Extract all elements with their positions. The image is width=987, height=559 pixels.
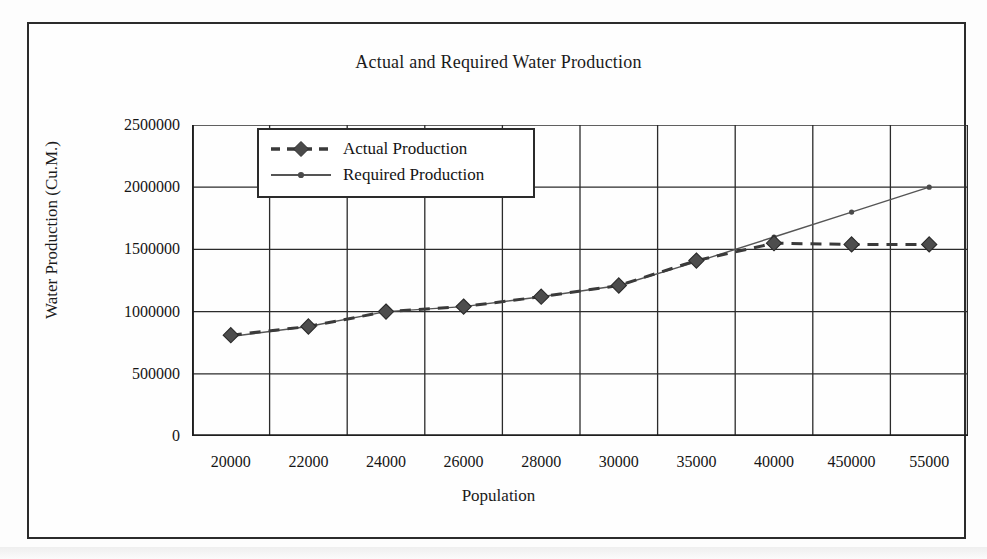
legend-label-required-production: Required Production bbox=[343, 165, 484, 185]
x-axis-tick-label: 450000 bbox=[828, 453, 876, 471]
legend-label-actual-production: Actual Production bbox=[343, 139, 467, 159]
data-point-marker bbox=[378, 304, 393, 319]
x-axis-tick-label: 55000 bbox=[909, 453, 949, 471]
legend-item-actual-production: Actual Production bbox=[269, 136, 523, 162]
chart-legend: Actual Production Required Production bbox=[257, 128, 535, 198]
data-point-marker bbox=[534, 289, 549, 304]
data-point-marker bbox=[927, 185, 932, 190]
x-axis-tick-label: 22000 bbox=[288, 453, 328, 471]
y-axis-tick-label: 2000000 bbox=[50, 179, 180, 195]
x-axis-tick-label: 26000 bbox=[444, 453, 484, 471]
scan-artifact-band bbox=[0, 547, 987, 559]
y-axis-tick-label: 2500000 bbox=[50, 117, 180, 133]
y-axis-tick-label: 500000 bbox=[50, 366, 180, 382]
x-axis-tick-label: 35000 bbox=[676, 453, 716, 471]
y-axis-tick-label: 1000000 bbox=[50, 304, 180, 320]
data-point-marker bbox=[611, 278, 626, 293]
data-point-marker bbox=[223, 328, 238, 343]
data-point-marker bbox=[849, 210, 854, 215]
data-point-marker bbox=[689, 253, 704, 268]
y-axis-tick-label: 1500000 bbox=[50, 241, 180, 257]
x-axis-tick-label: 28000 bbox=[521, 453, 561, 471]
legend-swatch-dashed-diamond bbox=[269, 139, 333, 159]
x-axis-tick-labels: 2000022000240002600028000300003500040000… bbox=[192, 453, 968, 479]
data-point-marker bbox=[766, 236, 781, 251]
page-background: Actual and Required Water Production Wat… bbox=[0, 0, 987, 559]
legend-item-required-production: Required Production bbox=[269, 162, 523, 188]
x-axis-tick-label: 24000 bbox=[366, 453, 406, 471]
data-point-marker bbox=[301, 319, 316, 334]
x-axis-tick-label: 30000 bbox=[599, 453, 639, 471]
x-axis-tick-label: 20000 bbox=[211, 453, 251, 471]
x-axis-tick-label: 40000 bbox=[754, 453, 794, 471]
y-axis-tick-labels: 05000001000000150000020000002500000 bbox=[47, 24, 180, 541]
y-axis-tick-label: 0 bbox=[50, 428, 180, 444]
chart-frame: Actual and Required Water Production Wat… bbox=[27, 22, 966, 539]
legend-swatch-solid-dot bbox=[269, 165, 333, 185]
